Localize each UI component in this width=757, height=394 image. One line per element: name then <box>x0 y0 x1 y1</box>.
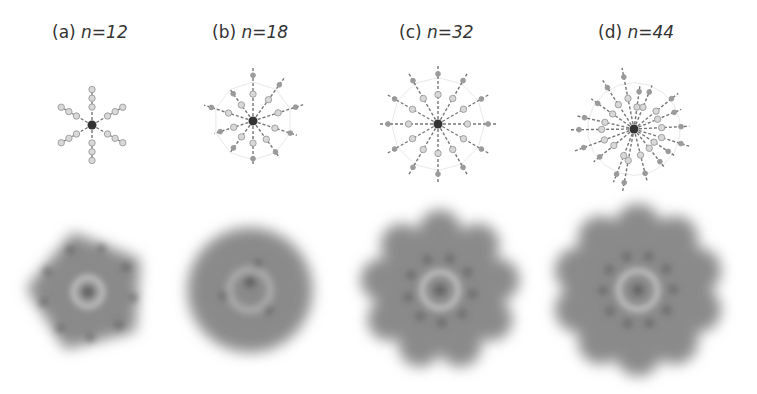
panel-tag: (b) <box>212 22 241 42</box>
molecule-structure-a <box>42 75 142 175</box>
panel-label-a: (a) n=12 <box>52 22 128 42</box>
panel-n-value: n=32 <box>427 22 474 42</box>
molecule-structure-b <box>193 61 313 181</box>
density-map-b <box>168 208 332 372</box>
density-map-c <box>344 194 536 386</box>
panel-label-c: (c) n=32 <box>399 22 474 42</box>
density-map-d <box>536 188 740 392</box>
panel-n-value: n=44 <box>627 22 674 42</box>
molecule-structure-d <box>564 59 704 199</box>
density-map-a <box>9 213 167 371</box>
panel-tag: (c) <box>399 22 427 42</box>
molecule-structure-c <box>368 54 508 194</box>
panel-tag: (a) <box>52 22 81 42</box>
panel-n-value: n=12 <box>81 22 128 42</box>
panel-tag: (d) <box>598 22 627 42</box>
panel-label-b: (b) n=18 <box>212 22 288 42</box>
panel-label-d: (d) n=44 <box>598 22 674 42</box>
panel-n-value: n=18 <box>241 22 288 42</box>
